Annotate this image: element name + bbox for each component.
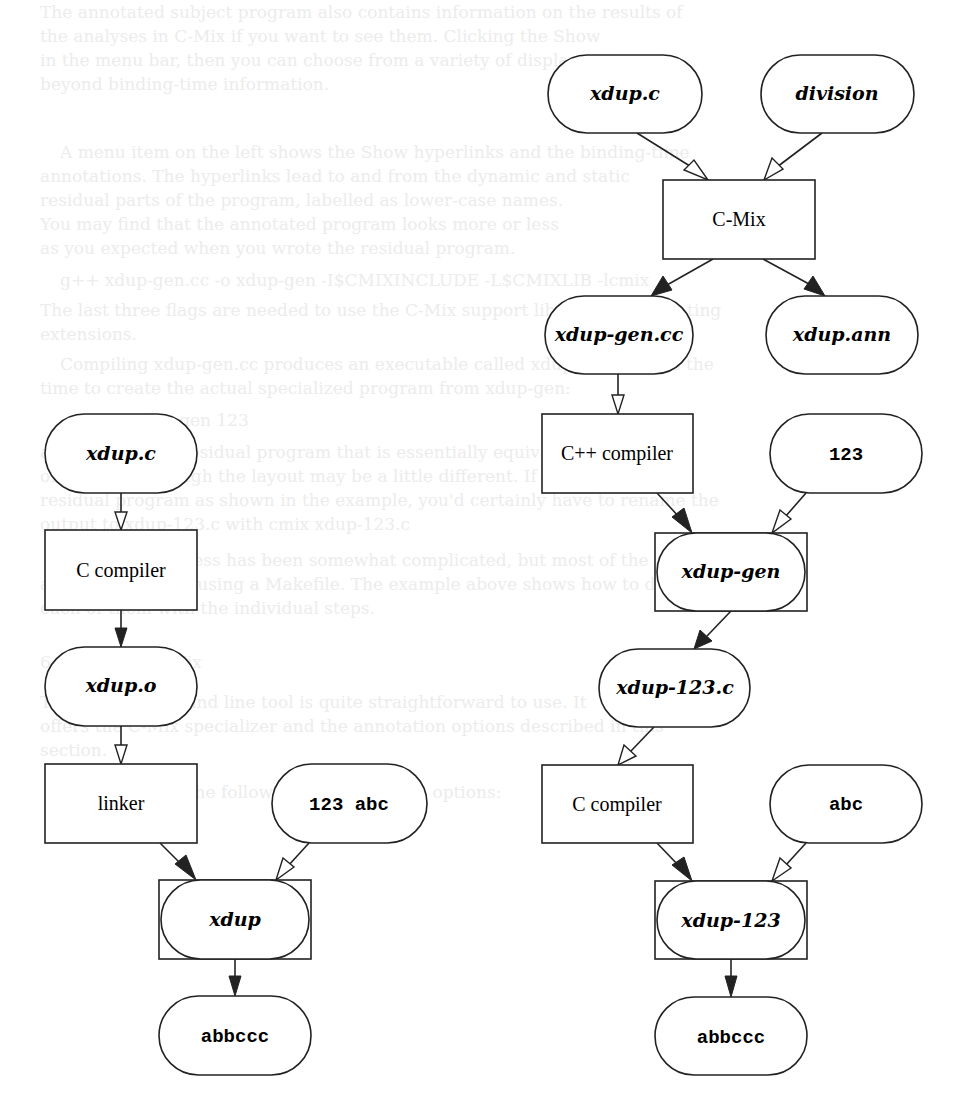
node-right-input-123: 123	[770, 414, 922, 493]
node-right-xdup-c: xdup.c	[548, 55, 702, 133]
node-label: 123 abc	[309, 794, 389, 816]
node-label: C-Mix	[712, 208, 765, 230]
node-right-xdup-123-c: xdup-123.c	[599, 649, 750, 727]
node-right-xdup-123-program: xdup-123	[655, 881, 807, 959]
node-right-input-abc: abc	[770, 765, 922, 843]
node-label: xdup.c	[85, 442, 156, 464]
node-right-xdup-gen-program: xdup-gen	[655, 533, 807, 611]
node-right-c-mix: C-Mix	[663, 180, 815, 259]
node-right-xdup-ann: xdup.ann	[766, 296, 918, 374]
node-label: abc	[829, 794, 863, 816]
node-left-xdup-o: xdup.o	[45, 647, 197, 726]
node-left-xdup-c: xdup.c	[45, 414, 197, 493]
node-label: xdup-gen	[681, 560, 781, 582]
node-right-division: division	[761, 55, 914, 133]
node-left-output-abbccc: abbccc	[159, 996, 311, 1075]
node-label: xdup.c	[589, 82, 660, 104]
node-label: xdup	[208, 908, 261, 930]
pipeline-diagram: xdup.c C compiler xdup.o linker 123 abc …	[0, 0, 966, 1111]
node-left-xdup-program: xdup	[159, 880, 311, 959]
node-left-linker: linker	[45, 764, 197, 843]
node-label: xdup.ann	[792, 323, 891, 345]
node-label: abbccc	[201, 1026, 269, 1048]
node-right-c-compiler: C compiler	[542, 765, 693, 843]
node-right-xdup-gen-cc: xdup-gen.cc	[545, 296, 693, 374]
node-label: C compiler	[76, 559, 166, 582]
node-label: xdup-123.c	[615, 676, 734, 698]
node-label: C compiler	[572, 793, 662, 816]
node-right-output-abbccc: abbccc	[655, 997, 807, 1075]
node-label: division	[795, 82, 878, 104]
node-left-c-compiler: C compiler	[45, 530, 197, 610]
node-right-cpp-compiler: C++ compiler	[542, 414, 693, 493]
node-label: 123	[829, 444, 863, 466]
node-left-input-123-abc: 123 abc	[272, 764, 427, 843]
node-label: xdup-123	[680, 909, 780, 931]
node-label: C++ compiler	[561, 442, 673, 465]
node-label: xdup.o	[85, 674, 157, 696]
node-label: linker	[98, 792, 145, 814]
node-label: abbccc	[697, 1027, 765, 1049]
node-label: xdup-gen.cc	[554, 323, 684, 345]
